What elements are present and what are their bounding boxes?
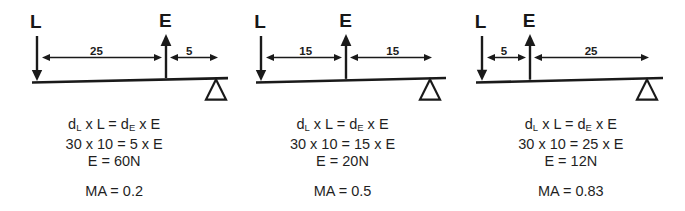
equation-line-substituted: 30 x 10 = 25 x E	[457, 136, 685, 153]
effort-force-arrow	[341, 34, 352, 79]
load-label: L	[30, 12, 42, 31]
equation-block: dL x L = dE x E 30 x 10 = 5 x E E = 60N	[0, 116, 228, 170]
equation-line-result: E = 60N	[0, 153, 228, 170]
effort-label: E	[159, 11, 172, 30]
effort-label: E	[523, 11, 536, 30]
effort-label: E	[339, 11, 352, 30]
fulcrum-triangle	[637, 80, 657, 100]
equation-block: dL x L = dE x E 30 x 10 = 25 x E E = 12N	[457, 116, 685, 170]
dimension-label-effort-to-fulcrum: 5	[186, 46, 192, 58]
mechanical-advantage-value: MA = 0.2	[0, 183, 228, 200]
lever-figure	[457, 0, 685, 108]
equation-line-substituted: 30 x 10 = 5 x E	[0, 136, 228, 153]
lever-panel-2: L E 15 15 dL x L = dE x E 30 x 10 = 15 x…	[228, 0, 456, 211]
effort-force-arrow	[161, 34, 172, 78]
equation-line-result: E = 12N	[457, 153, 685, 170]
lever-diagram-set: L E 25 5 dL x L = dE x E 30 x 10 = 5 x E…	[0, 0, 685, 211]
dimension-effort-to-fulcrum	[170, 54, 218, 61]
equation-line-general: dL x L = dE x E	[457, 116, 685, 136]
dimension-label-load-to-effort: 5	[501, 46, 507, 58]
dimension-label-effort-to-fulcrum: 25	[585, 46, 598, 58]
lever-beam	[32, 78, 228, 82]
lever-beam	[476, 78, 663, 82]
equation-line-general: dL x L = dE x E	[0, 116, 228, 136]
lever-panel-3: L E 5 25 dL x L = dE x E 30 x 10 = 25 x …	[457, 0, 685, 211]
lever-panel-1: L E 25 5 dL x L = dE x E 30 x 10 = 5 x E…	[0, 0, 228, 211]
load-force-arrow	[476, 36, 486, 81]
lever-beam	[256, 78, 446, 82]
load-label: L	[254, 12, 266, 31]
dimension-label-load-to-effort: 15	[299, 46, 312, 58]
fulcrum-triangle	[420, 80, 440, 100]
equation-line-general: dL x L = dE x E	[228, 116, 456, 136]
load-force-arrow	[32, 36, 42, 81]
equation-line-substituted: 30 x 10 = 15 x E	[228, 136, 456, 153]
equation-line-result: E = 20N	[228, 153, 456, 170]
mechanical-advantage-value: MA = 0.5	[228, 183, 456, 200]
load-force-arrow	[256, 36, 266, 81]
load-label: L	[475, 12, 487, 31]
effort-force-arrow	[524, 34, 535, 80]
dimension-label-effort-to-fulcrum: 15	[386, 46, 399, 58]
dimension-label-load-to-effort: 25	[90, 46, 103, 58]
fulcrum-triangle	[206, 80, 226, 100]
mechanical-advantage-value: MA = 0.83	[457, 183, 685, 200]
equation-block: dL x L = dE x E 30 x 10 = 15 x E E = 20N	[228, 116, 456, 170]
